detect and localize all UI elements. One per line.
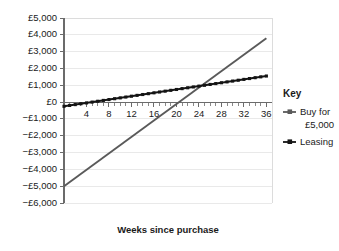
y-axis-tick-label: £5,000 <box>28 12 57 23</box>
chart-container: £5,000£4,000£3,000£2,000£1,000£0−£1,000−… <box>0 0 339 251</box>
series-marker-leasing <box>152 91 155 94</box>
series-marker-leasing <box>147 92 150 95</box>
series-marker-leasing <box>107 98 110 101</box>
series-marker-leasing <box>169 89 172 92</box>
x-axis-tick-label: 20 <box>171 108 182 119</box>
series-marker-leasing <box>124 95 127 98</box>
x-axis-tick-label: 36 <box>261 108 272 119</box>
series-marker-leasing <box>214 82 217 85</box>
series-marker-leasing <box>141 93 144 96</box>
series-marker-leasing <box>130 95 133 98</box>
series-marker-leasing <box>225 80 228 83</box>
series-marker-leasing <box>181 87 184 90</box>
series-marker-leasing <box>102 99 105 102</box>
y-axis-tick-label: £3,000 <box>28 45 57 56</box>
y-axis-tick-label: £1,000 <box>28 79 57 90</box>
series-marker-leasing <box>158 90 161 93</box>
x-axis-tick-label: 28 <box>216 108 227 119</box>
series-marker-leasing <box>242 78 245 81</box>
y-axis-tick-label: £0 <box>46 96 57 107</box>
y-axis-tick-label: −£1,000 <box>22 112 57 123</box>
series-marker-leasing <box>91 101 94 104</box>
x-axis-title: Weeks since purchase <box>117 224 219 235</box>
series-marker-leasing <box>237 79 240 82</box>
x-axis-tick-label: 4 <box>84 108 89 119</box>
series-marker-leasing <box>74 103 77 106</box>
series-line-buy <box>64 38 266 186</box>
series-marker-leasing <box>85 101 88 104</box>
series-marker-leasing <box>192 85 195 88</box>
y-axis-tick-label: −£6,000 <box>22 197 57 208</box>
series-marker-leasing <box>220 81 223 84</box>
x-axis-tick-label: 24 <box>194 108 205 119</box>
x-axis-tick-label: 8 <box>106 108 111 119</box>
y-axis-tick-label: £2,000 <box>28 62 57 73</box>
series-marker-leasing <box>119 96 122 99</box>
series-marker-leasing <box>68 104 71 107</box>
series-marker-leasing <box>254 76 257 79</box>
legend-label-buy[interactable]: Buy for <box>300 106 330 117</box>
series-marker-leasing <box>79 102 82 105</box>
legend-label-leasing[interactable]: Leasing <box>300 136 333 147</box>
series-marker-leasing <box>203 84 206 87</box>
y-axis-tick-label: −£3,000 <box>22 146 57 157</box>
series-marker-leasing <box>175 88 178 91</box>
series-marker-leasing <box>259 75 262 78</box>
x-axis-tick-label: 12 <box>126 108 137 119</box>
series-marker-leasing <box>265 74 268 77</box>
y-axis-tick-label: £4,000 <box>28 28 57 39</box>
x-axis-tick-label: 32 <box>239 108 250 119</box>
series-marker-leasing <box>136 94 139 97</box>
legend-marker-square-leasing <box>288 139 293 144</box>
series-marker-leasing <box>186 86 189 89</box>
line-chart: £5,000£4,000£3,000£2,000£1,000£0−£1,000−… <box>0 0 339 251</box>
series-marker-leasing <box>209 83 212 86</box>
y-axis-tick-label: −£2,000 <box>22 129 57 140</box>
legend-title: Key <box>283 88 302 99</box>
series-marker-leasing <box>164 90 167 93</box>
y-axis-tick-label: −£5,000 <box>22 180 57 191</box>
series-marker-leasing <box>96 100 99 103</box>
series-marker-leasing <box>62 105 65 108</box>
series-marker-leasing <box>113 97 116 100</box>
y-axis-tick-label: −£4,000 <box>22 163 57 174</box>
legend-label-buy-line2[interactable]: £5,000 <box>305 119 334 130</box>
series-marker-leasing <box>197 85 200 88</box>
series-marker-leasing <box>248 77 251 80</box>
legend-marker-square-buy <box>288 109 293 114</box>
series-marker-leasing <box>231 80 234 83</box>
